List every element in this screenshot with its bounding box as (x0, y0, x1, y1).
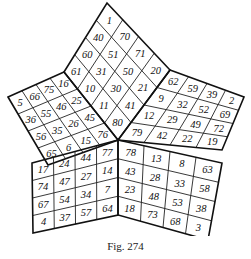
cell-number: 58 (199, 183, 210, 194)
cell-number: 62 (168, 76, 179, 87)
cell-number: 79 (132, 127, 143, 138)
cell-number: 12 (144, 110, 155, 121)
cell-number: 55 (41, 108, 52, 119)
cell-number: 36 (24, 114, 36, 125)
cell-number: 3 (195, 222, 201, 233)
cell-number: 70 (120, 31, 131, 42)
cell-number: 48 (148, 191, 159, 202)
cell-number: 30 (110, 83, 122, 94)
cell-number: 74 (38, 181, 49, 192)
cell-number: 25 (71, 95, 82, 106)
cell-number: 52 (199, 104, 210, 115)
cell-number: 28 (150, 172, 161, 183)
cell-number: 32 (176, 99, 188, 110)
cell-number: 27 (81, 171, 92, 182)
cell-number: 61 (71, 66, 82, 77)
cell-number: 45 (84, 112, 95, 123)
cell-number: 6 (66, 142, 72, 153)
cell-number: 78 (126, 147, 137, 158)
cell-number: 66 (29, 91, 40, 102)
cell-number: 29 (167, 114, 178, 125)
cell-number: 68 (170, 216, 181, 227)
cell-number: 14 (102, 165, 113, 176)
cell-number: 21 (138, 82, 149, 93)
cell-number: 47 (59, 176, 70, 187)
cell-number: 67 (38, 199, 49, 210)
cell-number: 73 (147, 209, 158, 220)
cell-number: 80 (112, 117, 123, 128)
cell-number: 1 (107, 15, 112, 26)
cell-number: 75 (44, 84, 55, 95)
cell-number: 13 (151, 153, 162, 164)
cell-number: 20 (151, 65, 162, 76)
cell-number: 42 (157, 130, 168, 141)
cell-number: 39 (206, 89, 218, 100)
grid-line (186, 157, 197, 234)
cell-number: 35 (51, 125, 63, 136)
cell-number: 24 (59, 158, 70, 169)
cell-number: 19 (207, 136, 218, 147)
figure-caption: Fig. 274 (0, 240, 251, 252)
cell-number: 59 (187, 83, 198, 94)
cell-number: 11 (99, 100, 109, 111)
cell-number: 38 (195, 203, 207, 214)
cell-number: 22 (182, 133, 193, 144)
cell-number: 63 (202, 164, 213, 175)
cell-number: 5 (18, 97, 23, 108)
magic-star-diagram: 1407060517161315020103021114180 56675163… (0, 0, 251, 236)
cell-number: 56 (36, 131, 47, 142)
cell-number: 77 (102, 147, 113, 158)
cell-number: 72 (213, 123, 224, 134)
cell-number: 69 (220, 109, 231, 120)
cell-number: 60 (82, 49, 93, 60)
cell-number: 18 (124, 203, 135, 214)
cell-number: 34 (80, 189, 92, 200)
cell-number: 26 (68, 118, 79, 129)
cell-number: 76 (97, 129, 108, 140)
cell-number: 71 (135, 48, 146, 59)
cell-number: 54 (59, 194, 70, 205)
cell-number: 57 (81, 207, 92, 218)
cell-number: 10 (85, 83, 96, 94)
cell-number: 4 (41, 216, 47, 227)
cell-number: 64 (102, 203, 113, 214)
cell-number: 41 (125, 100, 136, 111)
cell-number: 8 (179, 158, 185, 169)
cell-number: 16 (58, 78, 69, 89)
cell-number: 46 (56, 101, 67, 112)
cell-number: 7 (105, 184, 111, 195)
cell-number: 15 (80, 135, 91, 146)
cell-number: 50 (123, 66, 134, 77)
cell-number: 33 (173, 178, 185, 189)
cell-number: 40 (93, 32, 104, 43)
cell-number: 9 (159, 93, 165, 104)
cell-number: 44 (81, 152, 92, 163)
bottom-right-grid: 781386343283358234853381873683 (118, 140, 222, 236)
cell-number: 23 (125, 184, 136, 195)
cell-number: 53 (172, 197, 183, 208)
bottom-left-grid: 172444777447271467543474375764 (32, 140, 118, 233)
cell-number: 2 (229, 95, 235, 106)
cell-number: 51 (108, 49, 119, 60)
cell-number: 37 (59, 212, 71, 223)
cell-number: 31 (95, 66, 107, 77)
cell-number: 49 (190, 119, 201, 130)
cell-number: 43 (125, 166, 136, 177)
cell-number: 17 (38, 164, 49, 175)
